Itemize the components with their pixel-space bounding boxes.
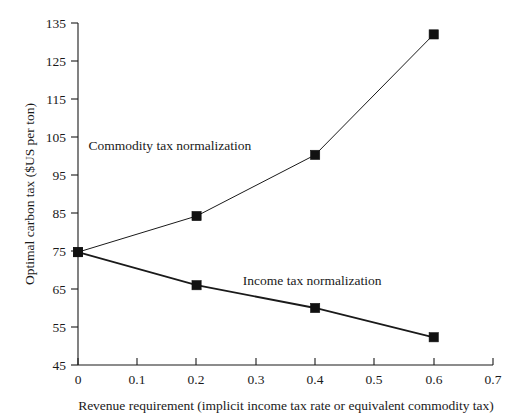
x-axis: 0 0.1 0.2 0.3 0.4 0.5 0.6 0.7 Revenue re… <box>75 358 502 413</box>
x-tick-label-0.1: 0.1 <box>129 372 146 387</box>
y-tick-label-45: 45 <box>53 358 67 373</box>
y-axis: 135 125 115 105 95 85 75 65 55 45 Optima… <box>22 16 78 373</box>
series-income-tax-normalization <box>73 248 438 342</box>
chart-figure: 135 125 115 105 95 85 75 65 55 45 Optima… <box>0 0 521 418</box>
data-point-marker <box>192 281 201 290</box>
x-axis-title: Revenue requirement (implicit income tax… <box>78 398 494 413</box>
data-point-marker <box>311 303 320 312</box>
x-tick-label-0.7: 0.7 <box>485 372 502 387</box>
y-tick-label-115: 115 <box>46 92 66 107</box>
data-point-marker <box>73 248 82 257</box>
chart-canvas: 135 125 115 105 95 85 75 65 55 45 Optima… <box>0 0 521 418</box>
data-point-marker <box>429 30 438 39</box>
y-tick-label-65: 65 <box>53 282 67 297</box>
series-label-commodity-tax-normalization: Commodity tax normalization <box>89 138 252 153</box>
y-tick-label-85: 85 <box>53 206 67 221</box>
y-tick-label-95: 95 <box>53 168 67 183</box>
x-tick-label-0.5: 0.5 <box>366 372 383 387</box>
y-tick-label-135: 135 <box>46 16 67 31</box>
y-tick-label-105: 105 <box>46 130 67 145</box>
x-tick-label-0.2: 0.2 <box>188 372 205 387</box>
series-label-income-tax-normalization: Income tax normalization <box>243 273 382 288</box>
data-point-marker <box>311 150 320 159</box>
x-tick-label-0.3: 0.3 <box>248 372 265 387</box>
x-tick-label-0.6: 0.6 <box>426 372 443 387</box>
y-tick-label-75: 75 <box>53 244 67 259</box>
series-line <box>78 252 434 337</box>
x-tick-label-0.4: 0.4 <box>307 372 324 387</box>
data-point-marker <box>429 333 438 342</box>
data-point-marker <box>192 211 201 220</box>
y-tick-label-55: 55 <box>53 320 67 335</box>
series-layer <box>73 30 438 342</box>
y-tick-label-125: 125 <box>46 54 67 69</box>
x-tick-label-0: 0 <box>75 372 82 387</box>
y-axis-title: Optimal carbon tax ($US per ton) <box>22 103 37 285</box>
